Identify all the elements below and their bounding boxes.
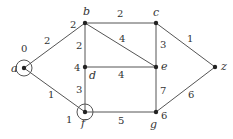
edge-weight-d-f: 3 bbox=[76, 84, 82, 95]
edge-weight-c-z: 1 bbox=[187, 33, 193, 44]
node-label-e: e bbox=[161, 60, 168, 73]
node-a bbox=[22, 66, 26, 70]
node-f bbox=[83, 110, 87, 114]
node-distance-a: 0 bbox=[21, 43, 27, 54]
node-distance-b: 2 bbox=[70, 19, 76, 30]
node-g bbox=[154, 110, 158, 114]
node-c bbox=[154, 21, 158, 25]
node-distance-g: 6 bbox=[161, 110, 167, 121]
node-label-c: c bbox=[153, 6, 159, 19]
node-b bbox=[83, 21, 87, 25]
node-e bbox=[154, 65, 158, 69]
node-label-b: b bbox=[83, 5, 90, 18]
edge-weight-e-g: 7 bbox=[160, 85, 166, 96]
edge-weight-b-c: 2 bbox=[117, 8, 123, 19]
edge-b-e bbox=[85, 23, 156, 67]
edge-weight-g-z: 6 bbox=[188, 89, 194, 100]
edge-weight-d-e: 4 bbox=[118, 69, 124, 80]
edge-weight-a-f: 1 bbox=[48, 89, 54, 100]
node-label-f: f bbox=[80, 117, 87, 130]
node-distance-f: 1 bbox=[66, 114, 72, 125]
node-z bbox=[213, 65, 217, 69]
edge-weight-b-e: 4 bbox=[119, 33, 125, 44]
graph-diagram: 212243143756 a0b2cd4ef1g6z bbox=[0, 0, 233, 139]
edge-weight-f-g: 5 bbox=[118, 115, 124, 126]
node-d bbox=[83, 65, 87, 69]
node-label-g: g bbox=[150, 118, 157, 131]
node-label-d: d bbox=[89, 69, 96, 82]
node-label-z: z bbox=[220, 60, 227, 73]
edge-weight-c-e: 3 bbox=[160, 39, 166, 50]
edge-weight-b-d: 2 bbox=[76, 40, 82, 51]
node-label-a: a bbox=[11, 62, 18, 75]
edge-weight-a-b: 2 bbox=[44, 35, 50, 46]
node-distance-d: 4 bbox=[74, 62, 80, 73]
